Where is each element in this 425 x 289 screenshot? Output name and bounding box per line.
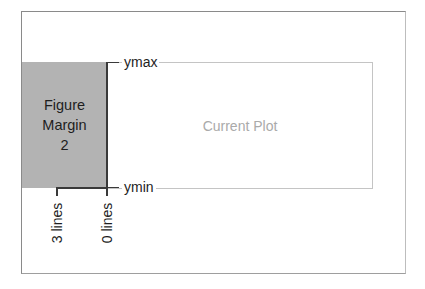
margin-label-line-2: Margin [42,115,86,135]
ymin-tick [107,187,119,188]
margin-label-line-3: 2 [42,135,86,155]
plot-left-edge [106,62,108,196]
margin-label-line-1: Figure [42,95,86,115]
current-plot-label: Current Plot [107,118,373,134]
ymin-label: ymin [122,180,156,194]
three-lines-label: 3 lines [49,193,65,253]
ymax-tick [107,62,119,63]
ymax-label: ymax [122,55,159,69]
margin-bracket-line [56,187,108,189]
figure-margin-2-box: Figure Margin 2 [22,62,107,188]
zero-lines-label: 0 lines [99,193,115,253]
figure-margin-label: Figure Margin 2 [42,95,86,155]
